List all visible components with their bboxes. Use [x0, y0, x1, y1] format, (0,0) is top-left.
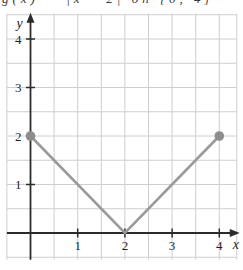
y-axis-label: y — [14, 16, 23, 31]
endpoint-dot — [26, 131, 36, 141]
x-tick-label: 2 — [122, 238, 129, 253]
x-tick-label: 4 — [216, 238, 223, 253]
y-tick-label: 2 — [15, 129, 22, 144]
grid-lines — [7, 14, 237, 260]
x-tick-label: 3 — [169, 238, 176, 253]
x-axis-arrow — [230, 229, 240, 237]
y-tick-label: 3 — [15, 80, 22, 95]
graph-canvas: 12341234yx — [0, 0, 243, 270]
x-tick-label: 1 — [74, 238, 81, 253]
y-tick-label: 4 — [15, 32, 22, 47]
axis-letters: yx — [14, 16, 239, 252]
x-axis-label: x — [232, 237, 240, 252]
tick-labels: 12341234 — [15, 32, 223, 254]
graph-figure: g(x) = |x - 2| on [0, 4] 12341234yx — [0, 0, 243, 270]
axis-ticks — [26, 39, 219, 238]
endpoint-dot — [215, 131, 225, 141]
y-tick-label: 1 — [15, 177, 22, 192]
